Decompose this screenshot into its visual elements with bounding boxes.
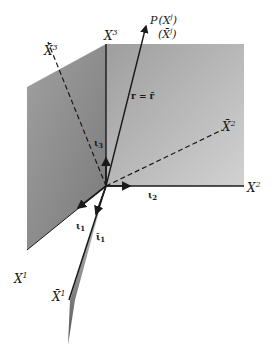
point-p-label: P(Xj) <box>149 13 177 27</box>
vector-equation-label: r = r̄ <box>131 91 155 101</box>
iota2-label: ι2 <box>148 190 157 202</box>
iota1-label: ι1 <box>76 221 85 233</box>
x2-label: X2 <box>246 180 261 195</box>
xbar1-label: X̄1 <box>51 289 66 304</box>
coordinate-diagram: X3 X̄3 P(Xj) (X̄j) r = r̄ X̄2 X2 ι3 ι2 ι… <box>0 0 273 360</box>
point-p-bar-label: (X̄j) <box>158 27 177 41</box>
x3-label: X3 <box>103 28 118 43</box>
plane-x2-x3 <box>106 44 244 186</box>
xbar3-label: X̄3 <box>43 43 58 58</box>
x1-label: X1 <box>13 271 28 286</box>
iotabar1-label: ῑ1 <box>96 232 105 244</box>
